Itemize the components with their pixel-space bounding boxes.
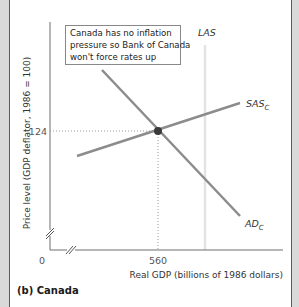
annotation-line-1: Canada has no inflation [70, 28, 172, 38]
y-axis-title: Price level (GDP deflator, 1986 = 100) [22, 57, 32, 230]
chart-svg: LAS SASC ADC 124 560 0 Real GDP (billion… [0, 0, 299, 307]
sas-label: SASC [246, 98, 270, 112]
x-axis-title: Real GDP (billions of 1986 dollars) [130, 270, 283, 280]
ad-curve [102, 70, 240, 216]
x-axis-break [66, 246, 76, 254]
origin-label: 0 [39, 255, 45, 266]
annotation-box: Canada has no inflation pressure so Bank… [66, 26, 191, 65]
ad-label: ADC [244, 218, 264, 232]
annotation-line-3: won't force rates up [70, 52, 156, 62]
x-tick-560: 560 [149, 255, 167, 266]
annotation-line-2: pressure so Bank of Canada [70, 40, 190, 50]
las-label: LAS [198, 27, 216, 38]
chart-caption: (b) Canada [17, 285, 79, 296]
equilibrium-point [154, 127, 162, 135]
